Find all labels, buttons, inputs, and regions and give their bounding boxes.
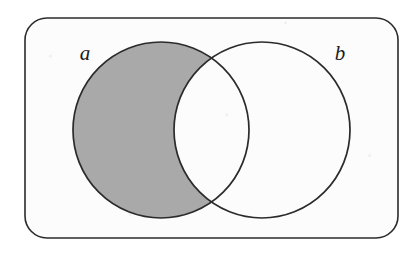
shaded-region-a-minus-b xyxy=(73,42,249,218)
venn-diagram-canvas: a b xyxy=(0,0,420,255)
set-label-b: b xyxy=(335,41,346,65)
set-label-a: a xyxy=(80,41,91,65)
venn-diagram-figure: a b xyxy=(0,0,420,255)
